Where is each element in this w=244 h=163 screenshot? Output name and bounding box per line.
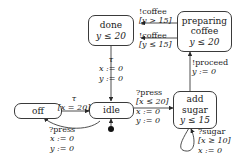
label-idle-to-add-sugar: ?press [x ≤ 20] x := 0 y := 0: [136, 88, 169, 125]
label-action: !proceed: [192, 58, 228, 67]
label-action: τ: [95, 55, 127, 64]
label-reset-1: x := 0: [42, 134, 82, 143]
state-add-sugar-name-line1: add: [187, 94, 204, 105]
state-add-sugar-name-line2: sugar: [182, 105, 208, 116]
label-action: ?press: [42, 125, 82, 134]
label-preparing-to-done-lower: !coffee [y ≤ 15]: [139, 31, 172, 50]
label-reset-1: x := 0: [95, 64, 127, 73]
state-done-name: done: [100, 20, 122, 31]
initial-state-marker: [108, 126, 114, 132]
state-off-name: off: [32, 106, 44, 117]
label-done-to-idle: τ x := 0 y := 0: [95, 55, 127, 83]
label-guard: [x ≤ 20]: [136, 97, 169, 106]
label-reset-2: y := 0: [42, 144, 82, 153]
label-action: ?press: [136, 88, 169, 97]
label-action: τ: [56, 94, 92, 103]
label-action: ?sugar: [198, 127, 231, 136]
state-add-sugar-invariant: y ≤ 15: [180, 115, 210, 126]
state-idle[interactable]: idle: [89, 102, 134, 119]
automaton-diagram: done y ≤ 20 preparing coffee y ≤ 20 add …: [0, 0, 244, 163]
label-guard: [y > 15]: [139, 16, 172, 25]
state-idle-name: idle: [103, 105, 120, 116]
state-done[interactable]: done y ≤ 20: [88, 15, 134, 46]
label-add-sugar-self-loop: ?sugar [x ≥ 10] x := 0: [198, 127, 231, 155]
label-reset: y := 0: [192, 67, 228, 76]
state-preparing-coffee[interactable]: preparing coffee y ≤ 20: [177, 11, 232, 52]
edge-add-sugar-self-loop: [181, 128, 194, 151]
label-add-sugar-to-preparing: !proceed y := 0: [192, 58, 228, 77]
label-action: !coffee: [139, 31, 172, 40]
state-done-invariant: y ≤ 20: [96, 31, 126, 42]
label-off-to-idle: τ [x = 20]: [56, 94, 92, 113]
label-preparing-to-done-upper: !coffee [y > 15]: [139, 7, 172, 26]
label-reset-1: x := 0: [136, 107, 169, 116]
state-preparing-coffee-name-line2: coffee: [191, 26, 219, 37]
label-idle-to-off: ?press x := 0 y := 0: [42, 125, 82, 153]
state-add-sugar[interactable]: add sugar y ≤ 15: [173, 91, 217, 129]
state-preparing-coffee-name-line1: preparing: [182, 16, 227, 27]
label-reset-2: y := 0: [95, 74, 127, 83]
state-off[interactable]: off: [14, 103, 62, 119]
state-preparing-coffee-invariant: y ≤ 20: [190, 37, 220, 48]
label-reset-2: y := 0: [136, 116, 169, 125]
label-reset: x := 0: [198, 146, 231, 155]
label-guard: [x = 20]: [56, 103, 92, 112]
label-action: !coffee: [139, 7, 172, 16]
label-guard: [x ≥ 10]: [198, 136, 231, 145]
label-guard: [y ≤ 15]: [139, 40, 172, 49]
